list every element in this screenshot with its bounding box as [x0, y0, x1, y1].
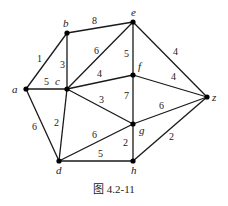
node-label-b: b: [63, 17, 69, 29]
node-label-g: g: [139, 124, 145, 136]
edge-weight-c-f: 4: [97, 68, 102, 79]
node-g: [130, 121, 135, 126]
edge-weight-b-c: 3: [60, 59, 65, 70]
node-label-d: d: [56, 164, 62, 176]
node-label-c: c: [55, 75, 60, 87]
edge-weight-d-g: 6: [92, 129, 97, 140]
figure-caption: 图 4.2-11: [0, 180, 228, 196]
edge-weight-f-g: 7: [124, 90, 129, 101]
node-f: [130, 72, 135, 77]
node-z: [204, 94, 209, 99]
edge-weight-g-z: 6: [159, 100, 164, 111]
node-h: [130, 158, 135, 163]
node-a: [23, 86, 28, 91]
edges-layer: [26, 22, 207, 161]
nodes-layer: [23, 19, 209, 163]
node-label-z: z: [211, 91, 217, 103]
node-label-f: f: [138, 60, 143, 72]
edge-weight-g-h: 2: [123, 137, 128, 148]
node-label-h: h: [131, 164, 137, 176]
edge-weight-h-z: 2: [169, 131, 174, 142]
edge-weight-d-h: 5: [98, 148, 103, 159]
edge-c-d: [59, 89, 67, 161]
edge-weight-c-g: 3: [99, 94, 104, 105]
edge-weight-a-c: 5: [44, 76, 49, 87]
edge-weight-c-d: 2: [54, 117, 59, 128]
edge-weight-a-d: 6: [32, 121, 37, 132]
node-b: [64, 30, 69, 35]
edge-g-z: [133, 97, 207, 124]
node-e: [130, 19, 135, 24]
node-label-e: e: [131, 6, 136, 18]
edge-weight-e-f: 5: [124, 48, 129, 59]
edge-weight-f-z: 4: [171, 71, 176, 82]
edge-weight-c-e: 6: [94, 45, 99, 56]
node-c: [64, 86, 69, 91]
edge-weight-a-b: 1: [37, 53, 42, 64]
node-d: [56, 158, 61, 163]
graph-diagram: 156386432544766252 abcdefghz: [0, 0, 228, 206]
edge-weight-b-e: 8: [92, 15, 97, 26]
edge-weight-e-z: 4: [173, 46, 178, 57]
node-label-a: a: [12, 83, 18, 95]
